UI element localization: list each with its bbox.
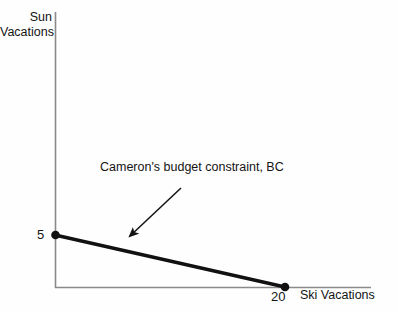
y-intercept-point <box>51 231 60 240</box>
y-axis-title: Sun Vacations <box>0 10 52 40</box>
y-axis-title-line-1: Sun <box>0 10 52 25</box>
budget-constraint-line <box>55 235 285 287</box>
chart-canvas <box>0 0 398 312</box>
budget-constraint-annotation: Cameron's budget constraint, BC <box>100 160 284 175</box>
x-axis-tick-label: 20 <box>271 289 285 304</box>
y-axis-tick-label: 5 <box>37 227 44 242</box>
annotation-arrow <box>130 188 181 236</box>
budget-constraint-chart: Sun Vacations Ski Vacations 5 20 Cameron… <box>0 0 398 312</box>
y-axis-title-line-2: Vacations <box>0 25 52 40</box>
x-axis-title: Ski Vacations <box>300 288 375 303</box>
